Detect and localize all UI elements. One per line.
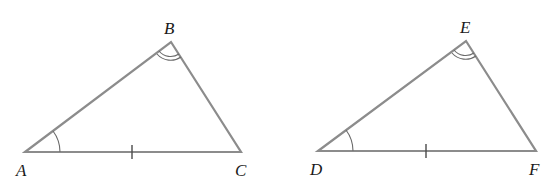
congruent-triangles-diagram: A B C D E F — [0, 0, 557, 191]
vertex-label-e: E — [459, 18, 471, 37]
vertex-label-d: D — [309, 160, 323, 179]
vertex-label-c: C — [235, 161, 247, 180]
vertex-label-b: B — [164, 19, 175, 38]
vertex-label-a: A — [15, 161, 27, 180]
angle-d-arc — [346, 130, 353, 151]
triangle-abc: A B C — [15, 19, 247, 180]
angle-a-arc — [53, 131, 60, 152]
vertex-label-f: F — [528, 160, 540, 179]
triangle-def-outline — [318, 41, 536, 151]
triangle-def: D E F — [309, 18, 540, 179]
triangle-abc-outline — [25, 42, 241, 152]
